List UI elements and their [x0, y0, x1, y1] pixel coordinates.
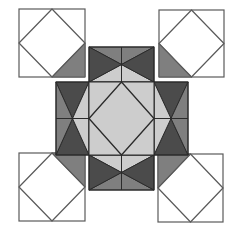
corner-block-bottom-right — [158, 154, 223, 222]
quilt-svg — [0, 0, 239, 239]
corner-block-bottom-left — [19, 153, 85, 221]
corner-block-top-right — [159, 10, 224, 77]
quilt-pattern-figure — [0, 0, 239, 239]
corner-block-top-left — [19, 9, 85, 77]
side-block-top — [89, 47, 154, 82]
center-block — [89, 82, 154, 155]
side-block-right — [154, 82, 188, 155]
side-block-bottom — [89, 155, 154, 190]
side-block-left — [56, 82, 89, 155]
